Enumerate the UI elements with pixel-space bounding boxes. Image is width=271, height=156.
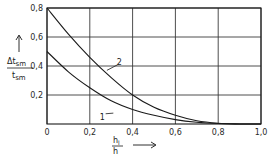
x-tick-label: 0,8 [212,128,225,137]
y-tick-label: 0,2 [30,91,43,100]
y-label-numerator-sub: sm [16,60,27,68]
x-tick-label: 0,6 [169,128,182,137]
svg-text:hl: hl [113,136,120,146]
x-label-denominator: h [113,147,118,156]
curve-label-2: 2 [117,58,122,67]
y-axis-label: Δtsm tsm [7,35,33,82]
x-tick-label: 0,2 [83,128,96,137]
y-tick-label: 0,4 [30,62,43,71]
svg-text:Δtsm: Δtsm [7,57,26,68]
curve-label-1: 1 [100,113,105,122]
y-axis-ticks: 0,20,40,60,8 [30,4,43,100]
leader-line [106,113,114,114]
svg-text:tsm: tsm [12,71,26,82]
x-axis-ticks: 00,20,40,60,81,0 [44,128,267,137]
leader-line [107,65,118,71]
x-tick-label: 1,0 [255,128,268,137]
grid-lines [47,8,261,124]
curve-1 [47,52,261,125]
y-label-denominator-sub: sm [15,74,26,82]
curve-labels: 12 [100,58,122,122]
x-tick-label: 0,4 [126,128,139,137]
x-tick-label: 0 [44,128,49,137]
line-chart: 00,20,40,60,81,0 0,20,40,60,8 12 Δtsm ts… [0,0,271,156]
x-axis-label: hl h [112,136,156,156]
y-tick-label: 0,6 [30,33,43,42]
x-label-numerator-sub: l [118,139,120,146]
y-tick-label: 0,8 [30,4,43,13]
y-label-numerator: Δt [7,57,16,66]
